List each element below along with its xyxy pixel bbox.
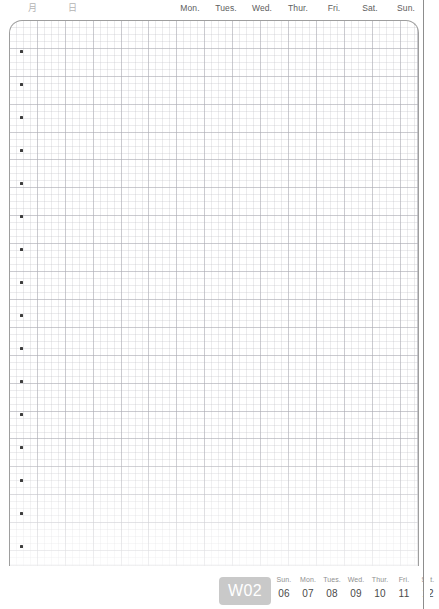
footer-day-date: 11 — [392, 587, 416, 601]
footer-day-name: Thur. — [368, 575, 392, 585]
week-number-badge: W02 — [219, 577, 271, 605]
footer-day-name: Sun. — [272, 575, 296, 585]
footer-day-date: 09 — [344, 587, 368, 601]
footer-day-date: 10 — [368, 587, 392, 601]
footer-day-cell[interactable]: Mon.07 — [296, 575, 320, 601]
footer-day-name: Wed. — [344, 575, 368, 585]
weekday-label: Thur. — [280, 3, 316, 13]
footer-day-cell[interactable]: Thur.10 — [368, 575, 392, 601]
footer-day-date: 07 — [296, 587, 320, 601]
weekday-label: Tues. — [208, 3, 244, 13]
page-right-edge — [423, 0, 430, 609]
footer-day-date: 06 — [272, 587, 296, 601]
footer-day-date: 08 — [320, 587, 344, 601]
day-label: 日 — [68, 2, 77, 14]
month-label: 月 — [28, 2, 37, 14]
weekday-label: Sat. — [352, 3, 388, 13]
page-footer: W02 Sun.06Mon.07Tues.08Wed.09Thur.10Fri.… — [0, 566, 430, 609]
weekday-label: Sun. — [388, 3, 424, 13]
page-header: 月 日 Mon.Tues.Wed.Thur.Fri.Sat.Sun. — [0, 0, 430, 20]
grid-fade-overlay — [10, 446, 418, 566]
weekday-label: Fri. — [316, 3, 352, 13]
grid-sheet — [9, 20, 419, 566]
footer-day-name: Tues. — [320, 575, 344, 585]
footer-day-cell[interactable]: Tues.08 — [320, 575, 344, 601]
footer-day-cell[interactable]: Wed.09 — [344, 575, 368, 601]
footer-day-name: Mon. — [296, 575, 320, 585]
weekday-label: Mon. — [172, 3, 208, 13]
footer-day-cell[interactable]: Fri.11 — [392, 575, 416, 601]
weekday-label: Wed. — [244, 3, 280, 13]
footer-day-name: Fri. — [392, 575, 416, 585]
footer-date-strip: Sun.06Mon.07Tues.08Wed.09Thur.10Fri.11Sa… — [272, 575, 439, 601]
footer-day-cell[interactable]: Sun.06 — [272, 575, 296, 601]
weekday-header-row: Mon.Tues.Wed.Thur.Fri.Sat.Sun. — [172, 3, 424, 13]
